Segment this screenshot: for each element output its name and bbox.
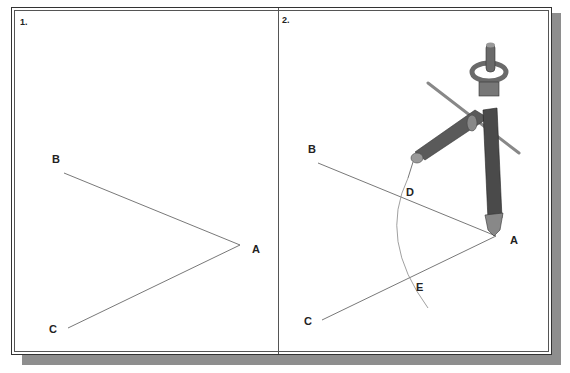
geometry-canvas — [0, 0, 570, 373]
point-label-c: C — [49, 323, 57, 335]
ray-AC — [68, 245, 240, 328]
ray-AB — [318, 163, 496, 236]
ray-AC — [322, 236, 496, 320]
point-label-c: C — [304, 315, 312, 327]
point-label-d: D — [406, 186, 414, 198]
point-label-b: B — [52, 153, 60, 165]
ray-AB — [64, 173, 240, 245]
panel-1-angle — [64, 173, 240, 328]
point-label-e: E — [416, 281, 423, 293]
panel-2-number: 2. — [282, 15, 290, 25]
point-label-b: B — [308, 143, 316, 155]
point-label-a: A — [252, 243, 260, 255]
panel-1-number: 1. — [20, 17, 28, 27]
point-label-a: A — [510, 234, 518, 246]
